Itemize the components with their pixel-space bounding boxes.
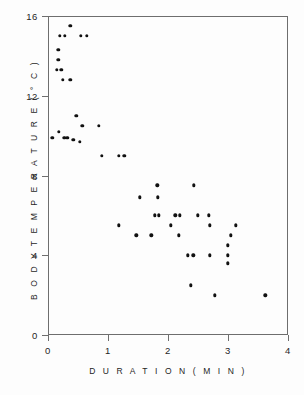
y-axis-tick-label: 0 — [12, 330, 38, 341]
x-axis-title: D U R A T I O N ( M I N ) — [48, 366, 288, 376]
x-axis-tick — [168, 335, 169, 341]
x-axis-tick — [288, 335, 289, 341]
y-axis-tick-label: 16 — [12, 11, 38, 22]
plot-area-frame — [48, 16, 288, 335]
x-axis-tick-label: 0 — [38, 345, 58, 356]
x-axis-tick-label: 3 — [218, 345, 238, 356]
x-axis-tick-label: 2 — [158, 345, 178, 356]
y-axis-tick — [42, 176, 48, 177]
x-axis-tick-label: 1 — [98, 345, 118, 356]
x-axis-tick — [228, 335, 229, 341]
scatter-chart-figure: 0481216 01234 D U R A T I O N ( M I N ) … — [0, 0, 304, 395]
y-axis-tick — [42, 16, 48, 17]
x-axis-tick — [48, 335, 49, 341]
y-axis-title: B O D Y T E M P E R A T U R E ( ° C ) — [29, 60, 39, 300]
x-axis-tick-label: 4 — [278, 345, 298, 356]
x-axis-tick — [108, 335, 109, 341]
y-axis-tick — [42, 96, 48, 97]
y-axis-tick — [42, 255, 48, 256]
